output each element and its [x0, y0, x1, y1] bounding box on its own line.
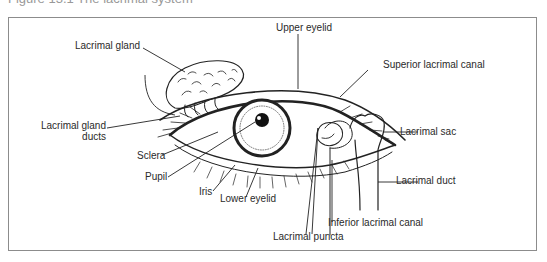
label-pupil: Pupil: [145, 171, 167, 182]
pupil-shape: [255, 113, 269, 127]
label-lacrimal-sac: Lacrimal sac: [400, 126, 456, 137]
label-lacrimal-gland: Lacrimal gland: [75, 40, 140, 51]
label-superior-lacrimal-canal: Superior lacrimal canal: [383, 59, 485, 70]
label-lacrimal-puncta: Lacrimal puncta: [273, 231, 344, 242]
label-inferior-lacrimal-canal: Inferior lacrimal canal: [328, 217, 423, 228]
label-iris: Iris: [199, 186, 212, 197]
label-lacrimal-gland-ducts-line1: Lacrimal gland: [20, 120, 106, 131]
label-lacrimal-gland-ducts-line2: ducts: [20, 131, 106, 142]
lacrimal-gland-shape: [166, 61, 243, 117]
iris-shape: [234, 100, 290, 156]
label-lower-eyelid: Lower eyelid: [220, 193, 276, 204]
label-sclera: Sclera: [137, 150, 165, 161]
label-lacrimal-duct: Lacrimal duct: [396, 175, 455, 186]
lacrimal-duct-shape: [355, 140, 360, 210]
label-upper-eyelid: Upper eyelid: [276, 22, 332, 33]
